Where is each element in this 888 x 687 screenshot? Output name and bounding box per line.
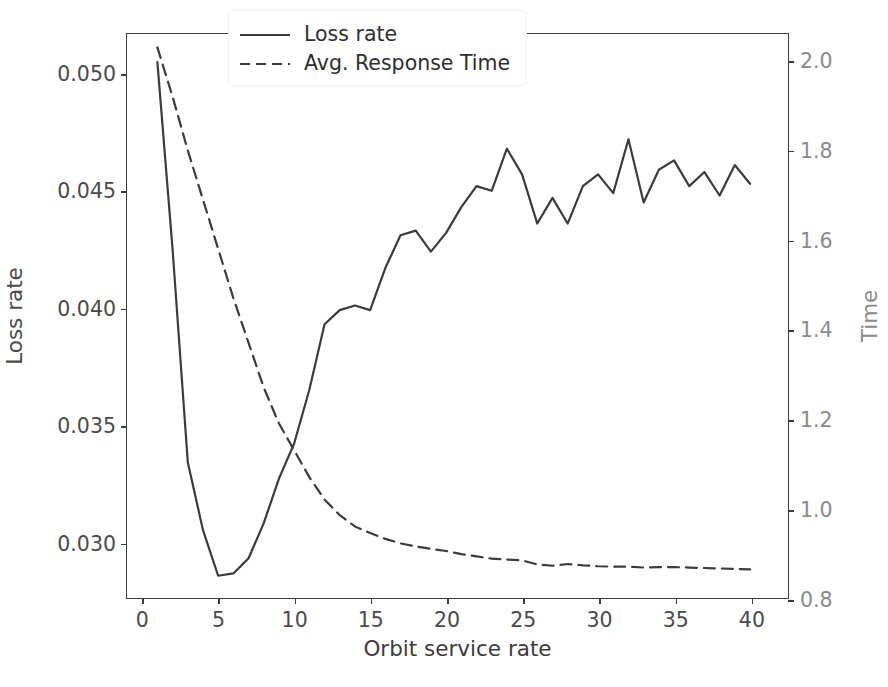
x-tick-mark bbox=[752, 598, 754, 604]
legend-item[interactable]: Loss rate bbox=[239, 19, 510, 48]
y-tick-label-left: 0.030 bbox=[57, 532, 116, 556]
y-tick-label-left: 0.045 bbox=[57, 179, 116, 203]
x-tick-label: 35 bbox=[663, 608, 689, 632]
y-tick-mark-right bbox=[788, 151, 794, 153]
y-tick-mark-left bbox=[121, 191, 127, 193]
y-tick-label-right: 1.0 bbox=[800, 498, 833, 522]
y-tick-mark-left bbox=[121, 426, 127, 428]
y-tick-mark-right bbox=[788, 510, 794, 512]
x-tick-label: 20 bbox=[434, 608, 460, 632]
x-axis-label: Orbit service rate bbox=[126, 636, 789, 661]
y-tick-mark-right bbox=[788, 420, 794, 422]
x-tick-mark bbox=[447, 598, 449, 604]
y-tick-label-left: 0.040 bbox=[57, 297, 116, 321]
x-tick-label: 40 bbox=[739, 608, 765, 632]
y-tick-mark-left bbox=[121, 74, 127, 76]
y-tick-label-right: 1.2 bbox=[800, 408, 833, 432]
y-axis-left-label: Loss rate bbox=[2, 267, 27, 365]
legend-item[interactable]: Avg. Response Time bbox=[239, 48, 510, 77]
x-tick-mark bbox=[371, 598, 373, 604]
legend-label: Avg. Response Time bbox=[304, 51, 510, 75]
x-tick-mark bbox=[599, 598, 601, 604]
plot-area: 0.0300.0350.0400.0450.0500.81.01.21.41.6… bbox=[126, 33, 789, 599]
y-tick-label-right: 1.6 bbox=[800, 229, 833, 253]
x-tick-mark bbox=[142, 598, 144, 604]
x-tick-label: 0 bbox=[136, 608, 149, 632]
series-line-loss-rate bbox=[157, 62, 750, 576]
x-tick-mark bbox=[676, 598, 678, 604]
legend-label: Loss rate bbox=[304, 22, 397, 46]
y-tick-label-right: 1.4 bbox=[800, 318, 833, 342]
x-tick-label: 25 bbox=[510, 608, 536, 632]
x-tick-mark bbox=[218, 598, 220, 604]
x-tick-mark bbox=[295, 598, 297, 604]
y-tick-mark-left bbox=[121, 544, 127, 546]
x-tick-label: 30 bbox=[586, 608, 612, 632]
y-tick-label-left: 0.035 bbox=[57, 414, 116, 438]
series-lines bbox=[127, 34, 788, 598]
y-tick-label-right: 1.8 bbox=[800, 139, 833, 163]
y-tick-mark-right bbox=[788, 600, 794, 602]
y-tick-mark-left bbox=[121, 309, 127, 311]
y-tick-mark-right bbox=[788, 241, 794, 243]
y-tick-label-left: 0.050 bbox=[57, 62, 116, 86]
y-axis-right-label: Time bbox=[857, 290, 882, 343]
dashed-line-icon bbox=[239, 56, 291, 70]
legend: Loss rateAvg. Response Time bbox=[228, 10, 527, 86]
x-tick-mark bbox=[523, 598, 525, 604]
solid-line-icon bbox=[239, 27, 291, 41]
series-line-avg-response-time bbox=[157, 47, 750, 569]
y-tick-mark-right bbox=[788, 61, 794, 63]
x-tick-label: 15 bbox=[358, 608, 384, 632]
y-tick-label-right: 2.0 bbox=[800, 49, 833, 73]
x-tick-label: 10 bbox=[282, 608, 308, 632]
chart-figure: Loss rate Time Orbit service rate 0.0300… bbox=[0, 0, 888, 687]
y-tick-mark-right bbox=[788, 330, 794, 332]
y-tick-label-right: 0.8 bbox=[800, 588, 833, 612]
x-tick-label: 5 bbox=[212, 608, 225, 632]
